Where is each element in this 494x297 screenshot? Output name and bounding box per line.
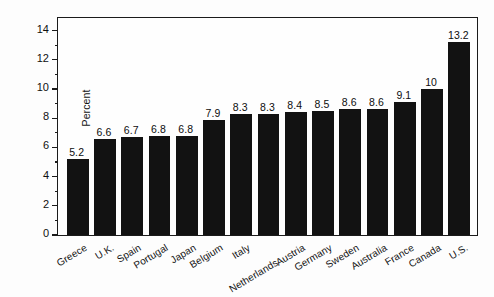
y-minor-tick-mark	[55, 132, 59, 133]
bar-value-label: 10	[411, 76, 451, 88]
y-tick-mark	[52, 59, 58, 60]
y-tick-label: 12	[37, 52, 49, 64]
y-tick-label: 6	[43, 139, 49, 151]
y-minor-tick-mark	[55, 74, 59, 75]
bar	[394, 102, 416, 235]
y-minor-tick-mark	[55, 45, 59, 46]
bar	[149, 136, 171, 235]
bar-value-label: 6.8	[166, 123, 206, 135]
bar	[176, 136, 198, 235]
bar	[67, 159, 89, 235]
bar-value-label: 9.1	[384, 89, 424, 101]
bar	[285, 112, 307, 235]
y-tick-mark	[52, 30, 58, 31]
y-tick-label: 8	[43, 110, 49, 122]
y-tick-label: 4	[43, 169, 49, 181]
bar	[367, 109, 389, 235]
y-minor-tick-mark	[55, 103, 59, 104]
y-tick-mark	[52, 205, 58, 206]
y-tick-mark	[52, 234, 58, 235]
y-tick-label: 0	[43, 227, 49, 239]
bar	[312, 111, 334, 235]
y-tick-mark	[52, 88, 58, 89]
bar	[121, 137, 143, 235]
bar	[339, 109, 361, 235]
y-minor-tick-mark	[55, 191, 59, 192]
y-tick-label: 14	[37, 23, 49, 35]
bar	[203, 120, 225, 235]
y-minor-tick-mark	[55, 220, 59, 221]
y-minor-tick-mark	[55, 161, 59, 162]
y-tick-label: 10	[37, 81, 49, 93]
bar	[94, 139, 116, 235]
y-tick-mark	[52, 118, 58, 119]
bar-value-label: 13.2	[438, 29, 478, 41]
y-tick-label: 2	[43, 198, 49, 210]
bar	[230, 114, 252, 235]
bar-chart: Percent 02468101214 5.26.66.76.86.87.98.…	[0, 0, 494, 297]
bar	[448, 42, 470, 235]
bar	[258, 114, 280, 235]
bar	[421, 89, 443, 235]
y-tick-mark	[52, 176, 58, 177]
bar-value-label: 5.2	[57, 146, 97, 158]
